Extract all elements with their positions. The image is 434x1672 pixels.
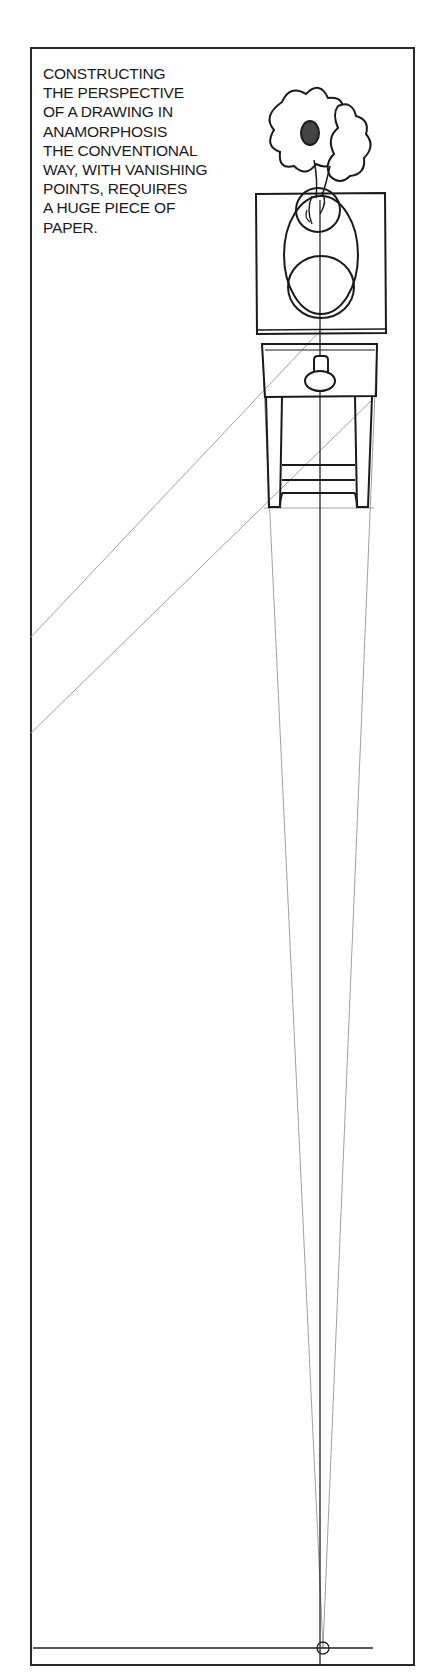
construction-lines <box>31 331 377 1648</box>
anamorphosis-drawing <box>0 0 434 1672</box>
left-perspective-line <box>262 345 323 1648</box>
table-top <box>256 193 386 334</box>
drawer-knob-icon <box>305 356 335 391</box>
vase <box>284 188 358 318</box>
diagonal-line-upper <box>31 331 320 637</box>
diagonal-line-lower <box>31 400 372 733</box>
right-perspective-line <box>323 345 377 1648</box>
flowers <box>270 88 371 198</box>
